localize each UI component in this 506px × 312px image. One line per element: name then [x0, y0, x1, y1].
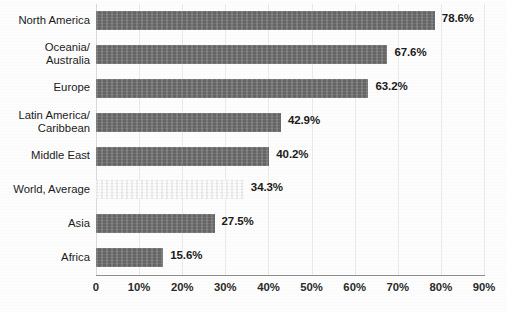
category-label: Africa: [0, 251, 90, 264]
x-tick-label: 0: [93, 281, 99, 293]
plot-area: 78.6%67.6%63.2%42.9%40.2%34.3%27.5%15.6%: [96, 4, 484, 275]
bar-north-america[interactable]: [96, 11, 435, 30]
bar-oceania-australia[interactable]: [96, 45, 387, 64]
bar-value-label: 42.9%: [288, 114, 320, 126]
x-axis-line: [96, 275, 485, 276]
x-tick-label: 20%: [171, 281, 194, 293]
bar-value-label: 34.3%: [251, 181, 283, 193]
x-tick-label: 70%: [386, 281, 409, 293]
bar-row: 42.9%: [96, 106, 484, 140]
category-label: North America: [0, 14, 90, 27]
x-tick-label: 60%: [343, 281, 366, 293]
bar-row: 27.5%: [96, 207, 484, 241]
bar-world-average[interactable]: [96, 180, 244, 199]
category-label: Europe: [0, 81, 90, 94]
x-tick-label: 90%: [473, 281, 496, 293]
bar-asia[interactable]: [96, 214, 215, 233]
horizontal-bar-chart: 78.6%67.6%63.2%42.9%40.2%34.3%27.5%15.6%…: [0, 0, 506, 312]
bar-value-label: 15.6%: [170, 249, 202, 261]
bar-row: 40.2%: [96, 140, 484, 174]
bar-row: 67.6%: [96, 38, 484, 72]
category-label: Middle East: [0, 149, 90, 162]
category-label: World, Average: [0, 183, 90, 196]
bar-row: 78.6%: [96, 4, 484, 38]
x-tick-label: 10%: [128, 281, 151, 293]
bar-row: 34.3%: [96, 173, 484, 207]
category-label: Oceania/ Australia: [0, 41, 90, 66]
x-tick-label: 50%: [300, 281, 323, 293]
x-tick-label: 30%: [214, 281, 237, 293]
bar-value-label: 78.6%: [442, 12, 474, 24]
x-tick-label: 40%: [257, 281, 280, 293]
gridline-90: [484, 4, 485, 275]
bar-row: 15.6%: [96, 241, 484, 275]
category-label: Asia: [0, 217, 90, 230]
bar-value-label: 67.6%: [394, 46, 426, 58]
bar-middle-east[interactable]: [96, 147, 269, 166]
bar-latin-america-caribbean[interactable]: [96, 113, 281, 132]
bar-row: 63.2%: [96, 72, 484, 106]
bar-value-label: 63.2%: [375, 80, 407, 92]
x-tick-label: 80%: [430, 281, 453, 293]
bar-africa[interactable]: [96, 248, 163, 267]
bar-value-label: 40.2%: [276, 148, 308, 160]
bar-value-label: 27.5%: [222, 215, 254, 227]
category-label: Latin America/ Caribbean: [0, 109, 90, 134]
bar-europe[interactable]: [96, 79, 368, 98]
